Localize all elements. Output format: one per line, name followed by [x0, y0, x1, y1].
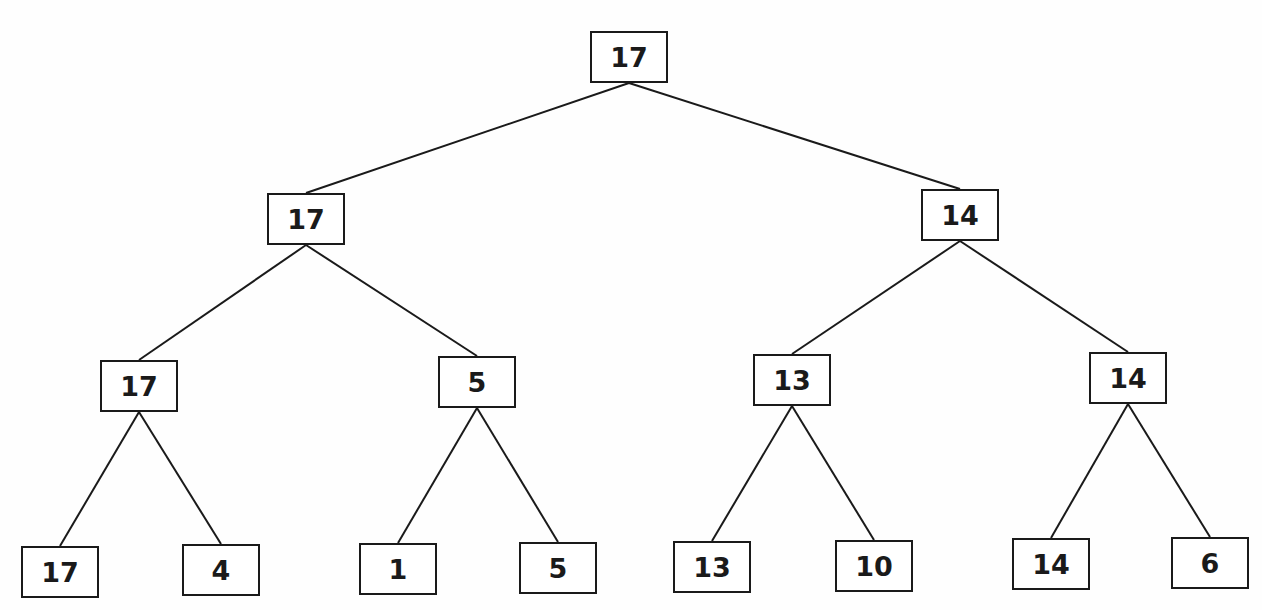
- tree-edge: [398, 408, 477, 543]
- tree-node-l2-4: 14: [1089, 352, 1167, 404]
- tree-edge: [139, 412, 221, 544]
- tree-node-l1-left: 17: [267, 193, 345, 245]
- tree-edge: [629, 83, 960, 189]
- tree-node-l2-1: 17: [100, 360, 178, 412]
- tree-node-root: 17: [590, 31, 668, 83]
- tree-node-l1-right: 14: [921, 189, 999, 241]
- tree-edge: [60, 412, 139, 546]
- tree-leaf-1: 17: [21, 546, 99, 598]
- tree-leaf-7: 14: [1012, 538, 1090, 590]
- tree-edge: [139, 245, 306, 360]
- tree-leaf-6: 10: [835, 540, 913, 592]
- tree-node-l2-3: 13: [753, 354, 831, 406]
- tree-edge: [477, 408, 558, 542]
- tree-edge: [712, 406, 792, 541]
- tree-edge: [1051, 404, 1128, 538]
- tree-leaf-3: 1: [359, 543, 437, 595]
- tree-leaf-8: 6: [1171, 537, 1249, 589]
- tree-node-l2-2: 5: [438, 356, 516, 408]
- tree-edge: [306, 245, 477, 356]
- tree-edges: [0, 0, 1262, 610]
- tree-leaf-4: 5: [519, 542, 597, 594]
- tree-edge: [306, 83, 629, 193]
- tree-edge: [792, 406, 874, 540]
- tree-diagram: 17 17 14 17 5 13 14 17 4 1 5 13 10 14 6: [0, 0, 1262, 610]
- tree-leaf-2: 4: [182, 544, 260, 596]
- tree-edge: [792, 241, 960, 354]
- tree-edge: [1128, 404, 1210, 537]
- tree-edge: [960, 241, 1128, 352]
- tree-leaf-5: 13: [673, 541, 751, 593]
